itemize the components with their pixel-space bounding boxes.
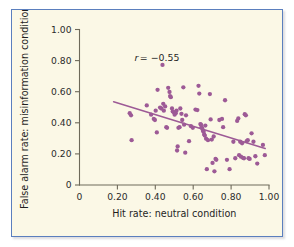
data-point <box>184 113 188 117</box>
x-tick-label: 1.00 <box>259 191 280 202</box>
data-point <box>236 116 240 120</box>
data-point <box>174 109 178 113</box>
data-point <box>210 161 214 165</box>
data-point <box>175 148 179 152</box>
x-tick-label: 0.20 <box>107 191 128 202</box>
data-point <box>246 138 250 142</box>
data-point <box>212 134 216 138</box>
data-point <box>163 104 167 108</box>
data-point <box>248 157 252 161</box>
data-point <box>179 112 183 116</box>
x-axis-ticks: 00.200.400.600.801.00 <box>77 185 280 202</box>
data-point <box>233 156 237 160</box>
data-point <box>196 84 200 88</box>
data-point <box>155 88 159 92</box>
data-point <box>227 167 231 171</box>
data-point <box>225 158 229 162</box>
y-tick-label: 0.40 <box>51 117 72 128</box>
y-axis-title: False alarm rate: misinformation conditi… <box>19 10 30 209</box>
data-point <box>206 138 210 142</box>
data-point <box>129 138 133 142</box>
x-axis-title: Hit rate: neutral condition <box>112 208 236 219</box>
data-point <box>155 130 159 134</box>
data-point <box>253 154 257 158</box>
data-point <box>255 161 259 165</box>
y-axis-ticks: 00.200.400.600.801.00 <box>51 24 79 191</box>
data-point <box>177 125 181 129</box>
data-point <box>244 113 248 117</box>
data-point <box>242 156 246 160</box>
data-point <box>180 118 184 122</box>
correlation-annotation: r= −0.55 <box>135 52 180 63</box>
y-tick-label: 0.60 <box>51 86 72 97</box>
x-tick-label: 0.80 <box>221 191 242 202</box>
data-points-group <box>128 63 267 174</box>
x-tick-label: 0.60 <box>183 191 204 202</box>
data-point <box>154 109 158 113</box>
data-point <box>176 144 180 148</box>
data-point <box>145 103 149 107</box>
data-point <box>251 140 255 144</box>
data-point <box>214 158 218 162</box>
correlation-r-symbol: r <box>135 52 140 63</box>
data-point <box>129 113 133 117</box>
y-tick-label: 1.00 <box>51 24 72 35</box>
x-tick-label: 0 <box>77 191 83 202</box>
data-point <box>195 108 199 112</box>
x-tick-label: 0.40 <box>145 191 166 202</box>
data-point <box>197 91 201 95</box>
data-point <box>212 169 216 173</box>
data-point <box>166 86 170 90</box>
data-point <box>231 140 235 144</box>
data-point <box>208 117 212 121</box>
data-point <box>160 63 164 67</box>
data-point <box>220 117 224 121</box>
chart-panel: 00.200.400.600.801.00 00.200.400.600.801… <box>11 9 283 237</box>
data-point <box>205 167 209 171</box>
data-point <box>221 125 225 129</box>
correlation-r-value: = −0.55 <box>140 52 180 63</box>
scatter-plot: 00.200.400.600.801.00 00.200.400.600.801… <box>12 10 284 238</box>
y-tick-label: 0 <box>66 179 72 190</box>
figure-container: 00.200.400.600.801.00 00.200.400.600.801… <box>0 0 294 247</box>
data-point <box>169 95 173 99</box>
data-point <box>208 92 212 96</box>
data-point <box>249 131 253 135</box>
data-point <box>203 123 207 127</box>
data-point <box>223 98 227 102</box>
data-point <box>165 126 169 130</box>
y-tick-label: 0.20 <box>51 148 72 159</box>
data-point <box>178 106 182 110</box>
data-point <box>261 143 265 147</box>
data-point <box>167 90 171 94</box>
data-point <box>183 151 187 155</box>
data-point <box>263 153 267 157</box>
data-point <box>153 118 157 122</box>
y-tick-label: 0.80 <box>51 55 72 66</box>
data-point <box>181 85 185 89</box>
data-point <box>187 139 191 143</box>
data-point <box>162 109 166 113</box>
